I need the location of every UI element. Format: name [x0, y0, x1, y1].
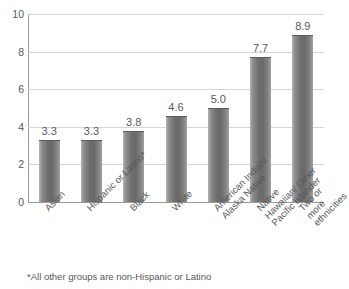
bar-value-label: 3.3 [29, 126, 69, 137]
y-tick-label-6: 6 [2, 84, 24, 95]
chart-footnote: *All other groups are non-Hispanic or La… [27, 271, 211, 282]
y-axis-tick-labels: 0246810 [0, 14, 24, 203]
bar[interactable] [208, 108, 229, 202]
y-tick-label-8: 8 [2, 46, 24, 57]
bar-value-label: 3.8 [114, 117, 154, 128]
y-tick-label-4: 4 [2, 122, 24, 133]
y-tick-label-0: 0 [2, 197, 24, 208]
bar-value-label: 4.6 [156, 102, 196, 113]
bar-value-label: 3.3 [71, 126, 111, 137]
plot-area: 3.33.33.84.65.07.78.9 [28, 14, 324, 202]
y-tick-label-2: 2 [2, 159, 24, 170]
x-axis-tick-labels: AsianHispanic or Latino*BlackWhiteAmeric… [28, 203, 324, 265]
bar-value-label: 7.7 [241, 43, 281, 54]
bar-value-label: 8.9 [283, 21, 323, 32]
gridline-10 [28, 14, 324, 15]
bar[interactable] [166, 116, 187, 202]
y-tick-label-10: 10 [2, 9, 24, 20]
gridline-6 [28, 89, 324, 90]
bar-value-label: 5.0 [198, 94, 238, 105]
